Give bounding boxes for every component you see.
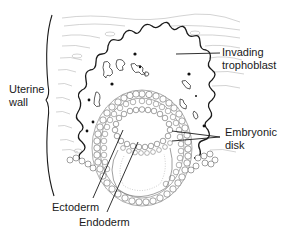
uterine-wall-brace: [46, 15, 54, 196]
embryonic-disk-label: Embryonic disk: [225, 126, 277, 152]
invading-trophoblast-label-line2: trophoblast: [222, 59, 276, 72]
uterine-wall-label-line1: Uterine: [9, 83, 44, 96]
uterine-wall-label-line2: wall: [9, 96, 44, 109]
invading-trophoblast-label-line1: Invading: [222, 46, 276, 59]
embryonic-disk-label-line2: disk: [225, 139, 277, 152]
invading-trophoblast-label: Invading trophoblast: [222, 46, 276, 72]
trophoblast-leader: [176, 53, 220, 54]
ectoderm-cells: [112, 107, 173, 150]
ectoderm-label: Ectoderm: [52, 201, 99, 214]
endoderm-label: Endoderm: [79, 216, 130, 229]
implantation-diagram: [0, 0, 289, 239]
embryonic-disk-label-line1: Embryonic: [225, 126, 277, 139]
uterine-tissue-striations: [56, 14, 244, 153]
yolk-sac-inner-outline: [120, 154, 165, 191]
uterine-wall-label: Uterine wall: [9, 83, 44, 109]
